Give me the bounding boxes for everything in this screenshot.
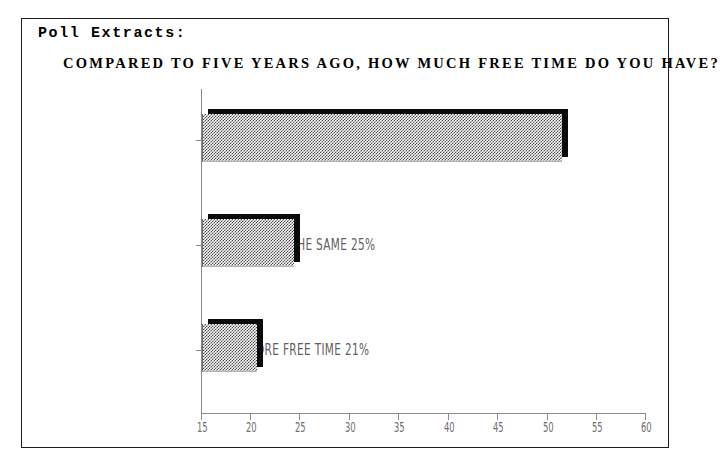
bar-body <box>202 114 562 162</box>
x-tick-label: 40 <box>444 419 455 435</box>
bar-body <box>202 219 294 267</box>
x-tick-label: 55 <box>592 419 603 435</box>
bar-chart-plot: LESS FREE TIME 54% ABOUT THE SAME 25% MO… <box>22 19 670 449</box>
x-tick-label: 50 <box>543 419 554 435</box>
x-tick-label: 35 <box>394 419 405 435</box>
x-tick-label: 20 <box>246 419 257 435</box>
bar-body <box>202 324 257 372</box>
x-tick-label: 30 <box>345 419 356 435</box>
x-tick-label: 15 <box>197 419 208 435</box>
bar-label-more-free-time: MORE FREE TIME 21% <box>247 341 370 359</box>
x-axis-line <box>201 413 646 414</box>
chart-frame: Poll Extracts: COMPARED TO FIVE YEARS AG… <box>21 18 669 448</box>
x-tick-label: 45 <box>493 419 504 435</box>
x-tick-label: 60 <box>641 419 652 435</box>
x-tick-label: 25 <box>295 419 306 435</box>
